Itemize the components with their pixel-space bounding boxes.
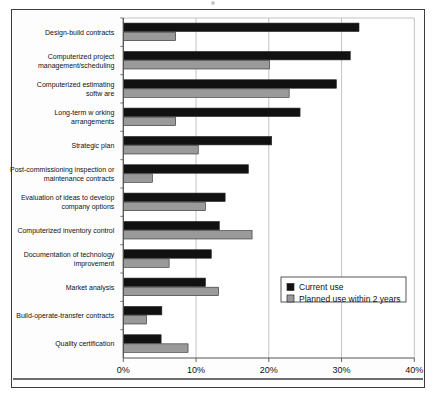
category-label-3: Long-term w orking [54,109,114,117]
category-label-2: softw are [86,90,115,97]
legend-swatch-0 [287,284,294,291]
category-label-6: Evaluation of ideas to develop [21,194,115,202]
figure-container: Design-build contractsComputerized proje… [0,0,435,396]
bar-current-use-6 [123,193,225,202]
category-label-3: arrangements [71,118,115,126]
bar-current-use-0 [123,23,359,32]
bar-current-use-3 [123,108,300,117]
category-label-8: improvement [74,260,115,268]
horizontal-bar-chart: Design-build contractsComputerized proje… [0,0,435,396]
category-label-5: maintenance contracts [44,175,115,182]
bar-current-use-7 [123,221,219,230]
bar-planned-use-4 [123,146,198,155]
legend-label-0: Current use [299,282,344,292]
category-label-7: Computerized inventory control [17,227,114,235]
bar-planned-use-1 [123,61,269,70]
bar-current-use-2 [123,80,336,89]
category-label-9: Market analysis [66,284,115,292]
x-tick-label-1: 10% [187,365,205,375]
category-label-0: Design-build contracts [45,29,115,37]
bar-current-use-4 [123,136,271,145]
category-label-8: Documentation of technology [24,251,115,259]
bar-planned-use-10 [123,316,146,325]
bar-planned-use-9 [123,287,218,296]
bar-current-use-5 [123,165,248,174]
category-label-6: company options [61,203,114,211]
category-label-5: Post-commissioning inspection or [10,166,115,174]
bar-planned-use-5 [123,174,152,183]
bar-planned-use-8 [123,259,169,268]
legend-swatch-1 [287,295,294,302]
bar-planned-use-7 [123,231,252,240]
category-label-4: Strategic plan [71,142,114,150]
x-tick-label-3: 30% [333,365,351,375]
bar-planned-use-2 [123,89,289,98]
bar-planned-use-6 [123,202,205,211]
category-label-10: Build-operate-transfer contracts [16,312,115,320]
x-tick-label-2: 20% [260,365,278,375]
bar-planned-use-0 [123,32,175,41]
bar-planned-use-3 [123,117,175,126]
x-tick-label-4: 40% [405,365,423,375]
legend-label-1: Planned use within 2 years [299,294,401,304]
category-label-1: management/scheduling [38,62,114,70]
bar-current-use-9 [123,278,205,287]
bar-current-use-8 [123,250,211,259]
category-label-2: Computerized estimating [37,81,115,89]
bar-planned-use-11 [123,344,188,353]
bar-current-use-10 [123,306,162,315]
x-tick-label-0: 0% [117,365,130,375]
bar-current-use-1 [123,51,350,60]
category-label-1: Computerized project [48,53,115,61]
category-label-11: Quality certification [55,340,114,348]
bar-current-use-11 [123,335,161,344]
